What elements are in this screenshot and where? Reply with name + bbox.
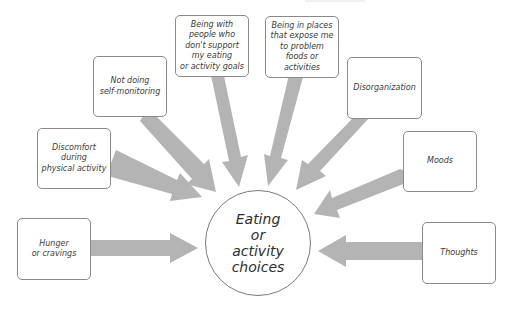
factor-unsupportive-people: Being with people who don't support my e… (175, 15, 249, 77)
factor-thoughts: Thoughts (422, 222, 496, 284)
arrow-places (264, 77, 303, 186)
factor-moods: Moods (403, 131, 477, 192)
arrow-moods (314, 169, 406, 218)
cropped-header-fragment (305, 0, 365, 2)
arrow-disorganization (296, 117, 370, 190)
influence-diagram: Hunger or cravings Discomfort during phy… (0, 0, 513, 318)
factor-hunger: Hunger or cravings (17, 218, 91, 280)
arrow-thoughts (318, 235, 423, 267)
arrow-hunger (90, 233, 198, 263)
factor-self-monitoring: Not doing self-monitoring (93, 56, 167, 117)
factor-disorganization: Disorganization (347, 57, 422, 119)
center-eating-activity-choices: Eating or activity choices (205, 190, 311, 296)
factor-problem-places: Being in places that expose me to proble… (265, 16, 339, 78)
arrow-people (211, 76, 248, 187)
factor-discomfort: Discomfort during physical activity (37, 128, 111, 189)
